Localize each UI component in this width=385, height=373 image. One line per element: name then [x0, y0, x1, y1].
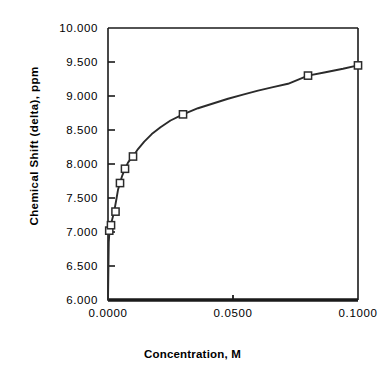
- data-point-marker: [121, 165, 128, 172]
- data-curve: [108, 65, 358, 300]
- plot-area: [0, 0, 385, 373]
- data-point-marker: [107, 222, 114, 229]
- data-point-marker: [129, 153, 136, 160]
- data-point-marker: [304, 72, 311, 79]
- data-point-marker: [354, 62, 361, 69]
- data-point-marker: [112, 208, 119, 215]
- chart-container: Chemical Shift (delta), ppm Concentratio…: [0, 0, 385, 373]
- data-point-marker: [116, 179, 123, 186]
- data-point-marker: [179, 111, 186, 118]
